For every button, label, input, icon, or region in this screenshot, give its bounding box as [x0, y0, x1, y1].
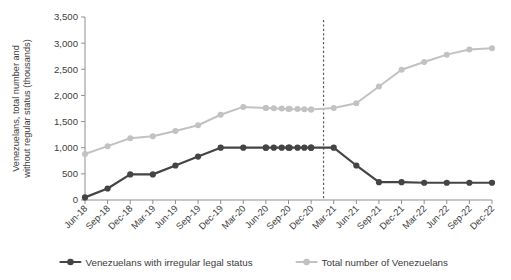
y-axis-ticks: 05001,0001,5002,0002,5003,0003,500 — [54, 11, 85, 205]
data-point — [82, 151, 88, 157]
data-point — [466, 46, 472, 52]
x-tick-label: Dec-21 — [378, 203, 406, 231]
data-point — [308, 107, 314, 113]
data-point — [105, 185, 111, 191]
y-axis-label-line: Venezuelans, total number and — [11, 45, 21, 172]
x-tick-label: Mar-19 — [129, 203, 157, 231]
data-point — [195, 122, 201, 128]
chart-container: Venezuelans, total number andwithout reg… — [0, 0, 511, 280]
y-tick-label: 3,000 — [54, 38, 78, 49]
series-total-venezuelans — [82, 45, 495, 157]
data-point — [301, 106, 307, 112]
data-point — [287, 106, 293, 112]
data-point — [279, 145, 285, 151]
x-tick-label: Sep-19 — [174, 203, 202, 231]
data-point — [218, 145, 224, 151]
line-chart: Venezuelans, total number andwithout reg… — [0, 0, 511, 280]
x-tick-label: Dec-22 — [468, 203, 496, 231]
x-tick-label: Mar-21 — [310, 203, 338, 231]
data-point — [399, 67, 405, 73]
data-point — [172, 128, 178, 134]
legend-marker-dot — [67, 259, 74, 266]
data-point — [287, 145, 293, 151]
series-line — [85, 148, 492, 198]
y-tick-label: 0 — [73, 194, 78, 205]
data-point — [127, 135, 133, 141]
data-point — [353, 162, 359, 168]
data-point — [489, 45, 495, 51]
y-tick-label: 1,500 — [54, 116, 78, 127]
x-tick-label: Sep-18 — [84, 203, 112, 231]
y-tick-label: 2,000 — [54, 90, 78, 101]
x-tick-label: Sep-21 — [355, 203, 383, 231]
y-axis-label-line: without regular status (thousands) — [22, 39, 32, 178]
x-tick-label: Sep-20 — [265, 203, 293, 231]
x-tick-label: Dec-19 — [197, 203, 225, 231]
legend-label: Total number of Venezuelans — [322, 257, 448, 268]
data-point — [82, 194, 88, 200]
x-tick-label: Mar-22 — [401, 203, 429, 231]
data-point — [331, 105, 337, 111]
chart-legend: Venezuelans with irregular legal statusT… — [60, 257, 448, 268]
y-tick-label: 500 — [62, 168, 78, 179]
data-point — [127, 171, 133, 177]
data-point — [489, 180, 495, 186]
data-point — [240, 145, 246, 151]
data-point — [172, 162, 178, 168]
y-tick-label: 1,000 — [54, 142, 78, 153]
data-point — [218, 112, 224, 118]
data-point — [376, 84, 382, 90]
y-tick-label: 3,500 — [54, 11, 78, 22]
x-tick-label: Sep-22 — [446, 203, 474, 231]
data-point — [295, 106, 301, 112]
legend-marker-dot — [303, 259, 310, 266]
data-point — [466, 180, 472, 186]
data-point — [105, 143, 111, 149]
data-point — [398, 179, 404, 185]
data-point — [279, 106, 285, 112]
data-point — [240, 104, 246, 110]
data-point — [353, 100, 359, 106]
data-point — [263, 105, 269, 111]
legend-item: Venezuelans with irregular legal status — [60, 257, 252, 268]
data-point — [421, 59, 427, 65]
data-point — [271, 105, 277, 111]
data-point — [444, 180, 450, 186]
x-tick-label: Mar-20 — [220, 203, 248, 231]
data-point — [444, 52, 450, 58]
x-axis-ticks: Jun-18Sep-18Dec-18Mar-19Jun-19Sep-19Dec-… — [62, 200, 496, 232]
data-point — [301, 145, 307, 151]
x-tick-label: Dec-20 — [287, 203, 315, 231]
data-point — [271, 145, 277, 151]
y-tick-label: 2,500 — [54, 64, 78, 75]
data-point — [195, 154, 201, 160]
legend-item: Total number of Venezuelans — [297, 257, 448, 268]
series-irregular-status — [82, 145, 495, 201]
data-point — [421, 180, 427, 186]
data-point — [376, 179, 382, 185]
data-point — [294, 145, 300, 151]
data-point — [150, 171, 156, 177]
y-axis-label-group: Venezuelans, total number andwithout reg… — [11, 39, 32, 178]
data-series-group — [82, 45, 495, 200]
data-point — [150, 133, 156, 139]
data-point — [331, 145, 337, 151]
legend-label: Venezuelans with irregular legal status — [85, 257, 252, 268]
data-point — [308, 145, 314, 151]
data-point — [263, 145, 269, 151]
series-line — [85, 48, 492, 154]
x-tick-label: Dec-18 — [106, 203, 134, 231]
